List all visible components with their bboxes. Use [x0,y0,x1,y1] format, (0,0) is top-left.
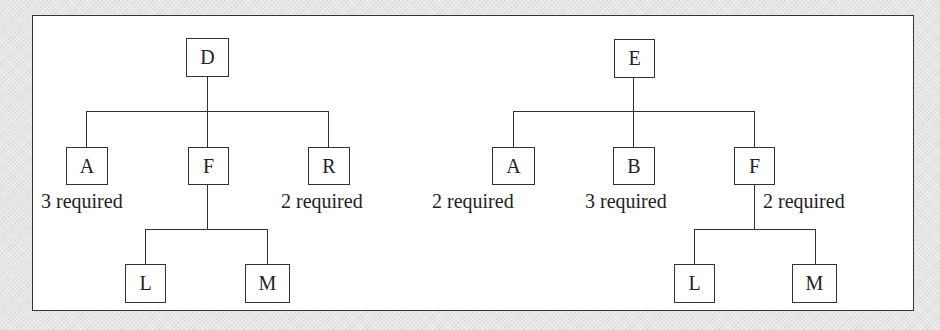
connector [207,76,208,112]
node-label: M [806,272,824,295]
node-label: L [688,272,700,295]
node-l: L [125,264,166,303]
node-label: L [139,272,151,295]
node-label: R [322,155,335,178]
connector [207,111,208,148]
connector [267,229,268,265]
connector [513,111,755,112]
node-r: R [308,147,350,185]
node-a: A [66,147,108,185]
node-label: F [749,155,760,178]
node-f: F [734,147,775,185]
node-label: A [80,155,94,178]
node-label: B [627,155,640,178]
node-d: D [186,38,229,77]
connector [633,111,634,148]
node-label: D [200,46,214,69]
connector [633,77,634,112]
node-label: E [628,47,640,70]
node-b: B [613,147,655,185]
connector [207,184,208,230]
node-label: A [506,155,520,178]
connector [815,229,816,265]
connector [754,184,755,230]
connector [86,111,87,148]
node-label: F [203,155,214,178]
node-f: F [188,147,229,185]
connector [513,111,514,148]
quantity-label-r: 2 required [281,190,363,212]
quantity-label-b: 3 required [585,190,667,212]
node-a: A [492,147,535,185]
node-l: L [674,264,715,303]
connector [694,229,816,230]
connector [145,229,268,230]
connector [754,111,755,148]
quantity-label-f: 2 required [763,190,845,212]
connector [145,229,146,265]
node-e: E [614,39,655,78]
quantity-label-a: 3 required [41,190,123,212]
node-label: M [259,272,277,295]
node-m: M [245,264,290,303]
connector [694,229,695,265]
node-m: M [792,264,837,303]
connector [328,111,329,148]
quantity-label-a: 2 required [432,190,514,212]
